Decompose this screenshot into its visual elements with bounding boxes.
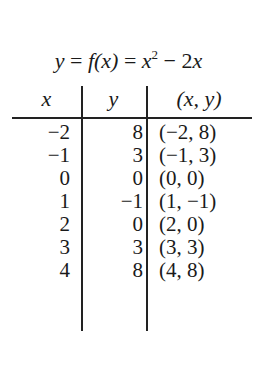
title-term: 2x <box>182 48 203 73</box>
cell-y: 8 <box>81 259 143 282</box>
cell-y: −1 <box>81 190 143 213</box>
cell-x: 0 <box>12 167 70 190</box>
cell-x: 3 <box>12 236 70 259</box>
title-y: y <box>55 48 65 73</box>
cell-pair: (4, 8) <box>159 259 257 282</box>
table-row: 4 8 (4, 8) <box>12 259 252 282</box>
cell-pair: (2, 0) <box>159 213 257 236</box>
cell-y: 0 <box>81 167 143 190</box>
table-row: 3 3 (3, 3) <box>12 236 252 259</box>
cell-x: 2 <box>12 213 70 236</box>
cell-y: 8 <box>81 121 143 144</box>
title-x: x <box>142 48 152 73</box>
header-y: y <box>81 86 146 112</box>
cell-x: −1 <box>12 144 70 167</box>
equals-sign: = <box>70 48 82 73</box>
title-fx: f(x) <box>88 48 119 73</box>
cell-x: 4 <box>12 259 70 282</box>
cell-pair: (1, −1) <box>159 190 257 213</box>
table-row: 0 0 (0, 0) <box>12 167 252 190</box>
table-row: 1 −1 (1, −1) <box>12 190 252 213</box>
cell-x: −2 <box>12 121 70 144</box>
header-x: x <box>12 86 81 112</box>
cell-pair: (0, 0) <box>159 167 257 190</box>
minus-sign: − <box>164 48 176 73</box>
cell-pair: (3, 3) <box>159 236 257 259</box>
equals-sign: = <box>124 48 136 73</box>
table-row: 2 0 (2, 0) <box>12 213 252 236</box>
cell-pair: (−2, 8) <box>159 121 257 144</box>
cell-y: 3 <box>81 144 143 167</box>
cell-pair: (−1, 3) <box>159 144 257 167</box>
cell-y: 3 <box>81 236 143 259</box>
function-title: y = f(x) = x2 − 2x <box>0 48 257 74</box>
exponent: 2 <box>152 47 159 62</box>
cell-x: 1 <box>12 190 70 213</box>
header-rule <box>12 117 252 119</box>
table-row: −1 3 (−1, 3) <box>12 144 252 167</box>
table-row: −2 8 (−2, 8) <box>12 121 252 144</box>
cell-y: 0 <box>81 213 143 236</box>
header-pair: (x, y) <box>146 86 252 112</box>
